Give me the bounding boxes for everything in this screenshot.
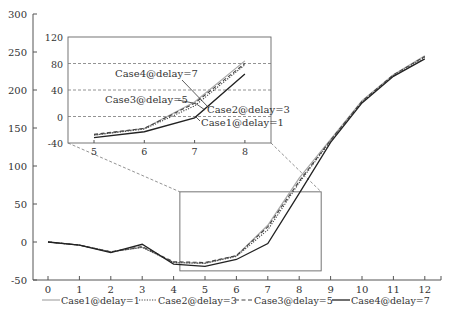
- inset-y-tick-label: 40: [51, 85, 63, 96]
- y-tick-label: 100: [8, 161, 27, 172]
- legend-item: Case3@delay=5: [235, 295, 333, 306]
- x-tick-label: 6: [233, 284, 239, 295]
- x-tick-label: 12: [418, 284, 431, 295]
- inset-x-tick-label: 7: [192, 146, 198, 157]
- y-tick-label: 250: [8, 47, 27, 58]
- x-tick-label: 10: [356, 284, 369, 295]
- inset-label-case3: Case3@delay=5: [105, 94, 188, 105]
- x-tick-label: 2: [108, 284, 114, 295]
- inset-y-tick-label: 0: [57, 112, 63, 123]
- y-tick-label: 200: [8, 85, 27, 96]
- inset-label-case4: Case4@delay=7: [115, 68, 198, 79]
- x-tick-label: 1: [76, 284, 82, 295]
- legend-label: Case4@delay=7: [351, 295, 430, 306]
- line-chart: -500501001502002503000123456789101112 -4…: [0, 0, 454, 322]
- chart-canvas: -500501001502002503000123456789101112 -4…: [0, 0, 454, 322]
- inset-y-tick-label: -40: [48, 138, 63, 149]
- x-tick-label: 0: [45, 284, 51, 295]
- inset-x-tick-label: 8: [242, 146, 248, 157]
- legend-label: Case2@delay=3: [158, 295, 237, 306]
- inset-x-tick-label: 6: [141, 146, 147, 157]
- y-tick-label: -50: [11, 275, 27, 286]
- x-tick-label: 7: [265, 284, 271, 295]
- legend: Case1@delay=1Case2@delay=3Case3@delay=5C…: [42, 295, 430, 306]
- x-tick-label: 8: [296, 284, 302, 295]
- inset-y-tick-label: 120: [45, 32, 63, 43]
- legend-label: Case3@delay=5: [254, 295, 333, 306]
- inset-y-tick-label: 80: [51, 59, 63, 70]
- x-tick-label: 9: [327, 284, 333, 295]
- legend-item: Case1@delay=1: [42, 295, 140, 306]
- legend-item: Case2@delay=3: [139, 295, 237, 306]
- x-tick-label: 3: [139, 284, 145, 295]
- legend-label: Case1@delay=1: [61, 295, 140, 306]
- y-tick-label: 50: [14, 199, 27, 210]
- inset-label-case1: Case1@delay=1: [201, 117, 284, 128]
- y-tick-label: 300: [8, 9, 27, 20]
- inset-label-case2: Case2@delay=3: [207, 104, 290, 115]
- y-tick-label: 0: [21, 237, 27, 248]
- inset-x-tick-label: 5: [91, 146, 97, 157]
- x-tick-label: 5: [202, 284, 208, 295]
- legend-item: Case4@delay=7: [332, 295, 430, 306]
- x-tick-label: 11: [387, 284, 400, 295]
- x-tick-label: 4: [170, 284, 176, 295]
- y-tick-label: 150: [8, 123, 27, 134]
